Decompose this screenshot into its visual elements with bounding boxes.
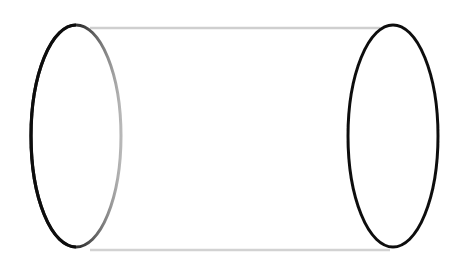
cylinder-drawing: [0, 0, 466, 274]
cylinder-diagram: [0, 0, 466, 274]
left-cap-dark-arc: [31, 25, 76, 247]
right-cap-ellipse: [348, 25, 438, 247]
